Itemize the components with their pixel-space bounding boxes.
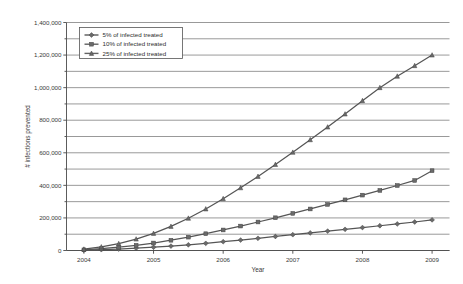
y-tick-label: 600,000	[39, 149, 62, 156]
data-point-marker	[221, 196, 225, 200]
data-point-marker	[186, 242, 191, 247]
data-point-marker	[343, 198, 347, 202]
data-point-marker	[221, 239, 226, 244]
y-tick-label: 1,000,000	[34, 84, 62, 91]
data-point-marker	[169, 238, 173, 242]
y-tick-label: 1,200,000	[34, 51, 62, 58]
data-point-marker	[151, 245, 156, 250]
y-tick-label: 400,000	[39, 182, 62, 189]
x-tick-label: 2009	[425, 256, 439, 263]
x-axis-title: Year	[252, 266, 266, 273]
data-point-marker	[377, 223, 382, 228]
legend-label: 25% of infected treated	[103, 50, 167, 57]
x-tick-label: 2004	[77, 256, 91, 263]
data-point-marker	[256, 220, 260, 224]
y-tick-labels: 0200,000400,000600,000800,0001,000,0001,…	[34, 19, 62, 254]
data-point-marker	[273, 234, 278, 239]
data-point-marker	[290, 232, 295, 237]
data-point-marker	[343, 227, 348, 232]
legend-label: 5% of infected treated	[103, 31, 164, 38]
data-point-marker	[395, 74, 399, 78]
chart-legend: 5% of infected treated10% of infected tr…	[80, 28, 183, 59]
data-point-marker	[152, 241, 156, 245]
data-point-marker	[326, 203, 330, 207]
line-chart: 0200,000400,000600,000800,0001,000,0001,…	[0, 0, 463, 284]
y-tick-label: 0	[58, 247, 62, 254]
data-point-marker	[238, 238, 243, 243]
data-point-marker	[395, 222, 400, 227]
data-point-marker	[203, 241, 208, 246]
data-point-marker	[413, 179, 417, 183]
legend-label: 10% of infected treated	[103, 40, 167, 47]
x-tick-label: 2006	[216, 256, 230, 263]
x-tick-label: 2008	[356, 256, 370, 263]
chart-figure: 0200,000400,000600,000800,0001,000,0001,…	[0, 0, 463, 284]
data-point-marker	[221, 228, 225, 232]
data-point-marker	[134, 243, 138, 247]
data-point-marker	[90, 42, 94, 46]
y-tick-label: 1,400,000	[34, 19, 62, 26]
data-point-marker	[361, 193, 365, 197]
data-point-marker	[325, 229, 330, 234]
y-tick-label: 800,000	[39, 116, 62, 123]
data-point-marker	[186, 235, 190, 239]
x-tick-marks	[84, 251, 432, 254]
data-point-marker	[169, 244, 174, 249]
data-point-marker	[308, 207, 312, 211]
data-point-marker	[412, 63, 416, 67]
y-axis-title: # infections prevented	[24, 105, 32, 168]
x-tick-label: 2007	[286, 256, 300, 263]
y-tick-label: 200,000	[39, 214, 62, 221]
data-point-marker	[117, 245, 121, 249]
data-point-marker	[395, 184, 399, 188]
data-point-marker	[291, 211, 295, 215]
data-point-marker	[308, 231, 313, 236]
data-point-marker	[360, 225, 365, 230]
data-point-marker	[204, 232, 208, 236]
y-tick-marks	[63, 23, 66, 251]
data-point-marker	[412, 220, 417, 225]
x-tick-label: 2005	[147, 256, 161, 263]
data-point-marker	[430, 169, 434, 173]
data-point-marker	[274, 216, 278, 220]
x-tick-labels: 200420052006200720082009	[77, 256, 440, 263]
data-point-marker	[239, 224, 243, 228]
data-point-marker	[378, 189, 382, 193]
data-point-marker	[256, 236, 261, 241]
